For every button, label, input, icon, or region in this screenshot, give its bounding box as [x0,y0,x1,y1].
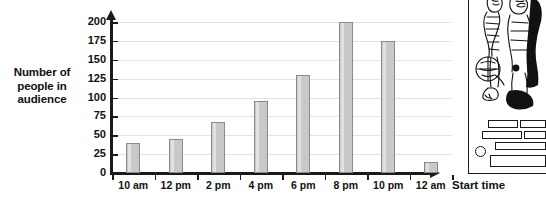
y-tick-label: 150 [78,53,106,65]
x-tick-label: 8 pm [325,179,368,191]
y-tick-label: 200 [78,15,106,27]
x-tick-label: 4 pm [240,179,283,191]
y-axis-title-line-2: people in [2,80,82,94]
x-tick-label: 6 pm [282,179,325,191]
y-axis-title-line-3: audience [2,93,82,107]
text-placeholder-bar [488,120,518,128]
x-tick-label: 12 pm [155,179,198,191]
x-tick-mark [197,175,199,180]
y-axis-arrow-icon [106,10,116,20]
y-tick-label: 125 [78,72,106,84]
costumed-figures-illustration [469,0,546,113]
x-tick-mark [240,175,242,180]
gridline [112,98,452,99]
bar [339,22,353,173]
bar [254,101,268,173]
text-placeholder-bar [520,120,546,128]
y-tick-mark [113,135,118,137]
y-tick-mark [113,98,118,100]
gridline [112,154,452,155]
y-tick-label: 50 [78,128,106,140]
y-tick-mark [113,116,118,118]
y-tick-mark [113,41,118,43]
x-tick-mark [410,175,412,180]
text-placeholder-bar [495,142,546,150]
y-tick-mark [113,22,118,24]
y-tick-mark [113,154,118,156]
y-tick-label: 175 [78,34,106,46]
bullet-circle-icon [475,146,486,157]
text-placeholder-bar [524,131,546,139]
bar [169,139,183,173]
y-tick-mark [113,79,118,81]
bar [424,162,438,173]
y-tick-label: 75 [78,109,106,121]
gridline [112,116,452,117]
line-art-figure-panel [468,0,546,174]
gridline [112,22,452,23]
x-tick-mark [325,175,327,180]
x-axis-title: Start time [452,179,505,191]
y-tick-label: 100 [78,91,106,103]
gridline [112,41,452,42]
x-tick-mark [282,175,284,180]
y-axis-title: Number of people in audience [2,66,82,107]
x-tick-label: 10 pm [367,179,410,191]
gridline [112,79,452,80]
x-tick-label: 12 am [410,179,453,191]
bar [381,41,395,173]
x-tick-mark [367,175,369,180]
x-tick-mark [155,175,157,180]
x-tick-label: 10 am [112,179,155,191]
gridline [112,60,452,61]
x-tick-mark [112,175,114,180]
bar [211,122,225,173]
gridline [112,135,452,136]
bar [126,143,140,173]
x-tick-label: 2 pm [197,179,240,191]
y-tick-mark [113,60,118,62]
y-tick-label: 25 [78,147,106,159]
y-tick-mark [113,173,118,175]
y-axis-title-line-1: Number of [2,66,82,80]
y-tick-label: 0 [78,166,106,178]
text-placeholder-bar [490,155,546,167]
bar [296,75,310,173]
text-placeholder-bar [482,131,522,139]
